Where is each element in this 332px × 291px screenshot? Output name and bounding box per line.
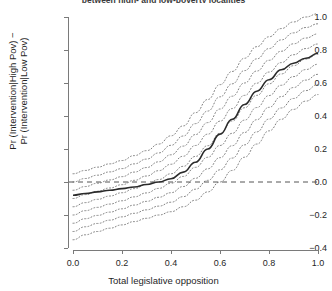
confidence-contour-8 <box>73 14 318 174</box>
confidence-contour-4 <box>73 54 318 207</box>
confidence-contour-2 <box>73 74 318 223</box>
estimate-curve <box>73 53 318 195</box>
confidence-contour-1 <box>73 84 318 231</box>
confidence-contour-3 <box>73 64 318 215</box>
confidence-band-contours <box>73 14 318 240</box>
confidence-contour-7 <box>73 24 318 182</box>
confidence-contour-5 <box>73 44 318 198</box>
confidence-contour-6 <box>73 34 318 190</box>
